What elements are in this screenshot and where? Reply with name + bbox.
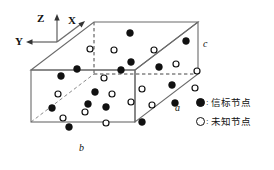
beacon-node xyxy=(85,101,92,108)
legend-item-beacon: : 信标节点 xyxy=(196,93,274,112)
beacon-node xyxy=(127,30,134,37)
beacon-node xyxy=(183,38,190,45)
beacon-node xyxy=(118,67,125,74)
beacon-node xyxy=(156,64,163,71)
x-axis-label: X xyxy=(68,15,76,26)
legend: : 信标节点 : 未知节点 xyxy=(196,93,274,131)
legend-label-beacon: 信标节点 xyxy=(211,98,251,108)
edge-label-a: a xyxy=(175,103,180,113)
beacon-node xyxy=(92,89,99,96)
z-axis-arrowhead xyxy=(54,14,59,21)
filled-circle-icon xyxy=(196,98,205,107)
x-axis-line xyxy=(57,24,81,42)
legend-separator-beacon: : xyxy=(206,98,209,107)
beacon-node xyxy=(74,66,81,73)
cuboid-right-face xyxy=(135,22,198,122)
unknown-node xyxy=(82,109,88,115)
coordinate-axes xyxy=(26,14,85,45)
unknown-node xyxy=(103,120,109,126)
y-axis-label: Y xyxy=(15,36,23,47)
cuboid-wireframe xyxy=(31,22,198,122)
unknown-node xyxy=(111,47,117,53)
unknown-node xyxy=(149,102,155,108)
hollow-circle-icon xyxy=(196,117,205,126)
beacon-node xyxy=(58,73,65,80)
legend-item-unknown: : 未知节点 xyxy=(196,112,274,131)
unknown-node xyxy=(55,91,61,97)
edge-label-b: b xyxy=(79,143,84,153)
beacon-node xyxy=(169,82,176,89)
unknown-node xyxy=(101,75,107,81)
unknown-node xyxy=(109,91,115,97)
unknown-node xyxy=(151,47,157,53)
beacon-node xyxy=(128,59,135,66)
unknown-node xyxy=(87,46,93,52)
unknown-node xyxy=(128,99,134,105)
unknown-node xyxy=(194,68,200,74)
cuboid-diagram xyxy=(0,0,274,170)
z-axis-label: Z xyxy=(37,13,44,24)
legend-separator-unknown: : xyxy=(206,117,209,126)
legend-label-unknown: 未知节点 xyxy=(211,117,251,127)
y-axis-arrowhead xyxy=(26,39,33,44)
beacon-node xyxy=(139,119,146,126)
unknown-node xyxy=(139,86,145,92)
x-axis-arrowhead xyxy=(78,21,85,28)
beacon-node xyxy=(66,124,73,131)
unknown-node xyxy=(192,85,198,91)
unknown-node xyxy=(173,61,179,67)
unknown-node xyxy=(60,115,66,121)
beacon-node xyxy=(103,104,110,111)
unknown-node-group xyxy=(55,46,200,126)
edge-label-c: c xyxy=(203,39,207,49)
beacon-node xyxy=(49,105,56,112)
figure-canvas: Z X Y a b c : 信标节点 : 未知节点 xyxy=(0,0,274,170)
